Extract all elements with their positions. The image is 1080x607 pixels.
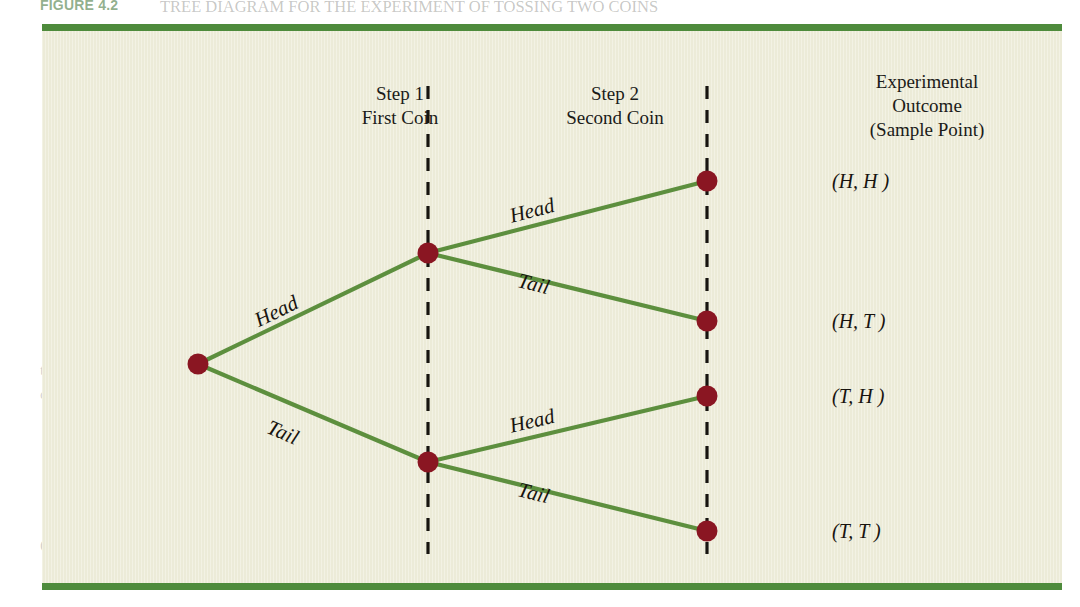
- branch-first-head: [198, 253, 428, 364]
- figure-panel: Step 1 First Coin Step 2 Second Coin Exp…: [42, 24, 1062, 590]
- tree-diagram: [42, 24, 1062, 590]
- node-root: [188, 354, 209, 375]
- node-step1-head: [418, 243, 439, 264]
- branch-first-tail: [198, 364, 428, 462]
- outcome-label-hh: (H, H ): [832, 170, 1012, 193]
- figure-page: FIGURE 4.2 TREE DIAGRAM FOR THE EXPERIME…: [0, 0, 1080, 607]
- branch-second-tail-lower: [428, 462, 707, 531]
- figure-number-bleed: FIGURE 4.2: [40, 0, 118, 13]
- outcome-label-ht: (H, T ): [832, 310, 1012, 333]
- node-leaf-th: [697, 386, 718, 407]
- node-leaf-ht: [697, 311, 718, 332]
- node-leaf-tt: [697, 521, 718, 542]
- outcome-label-th: (T, H ): [832, 385, 1012, 408]
- branch-second-tail-upper: [428, 253, 707, 321]
- branch-second-head-lower: [428, 396, 707, 462]
- branch-second-head-upper: [428, 181, 707, 253]
- node-step1-tail: [418, 452, 439, 473]
- node-leaf-hh: [697, 171, 718, 192]
- outcome-label-tt: (T, T ): [832, 520, 1012, 543]
- figure-caption-bleed: TREE DIAGRAM FOR THE EXPERIMENT OF TOSSI…: [160, 0, 658, 17]
